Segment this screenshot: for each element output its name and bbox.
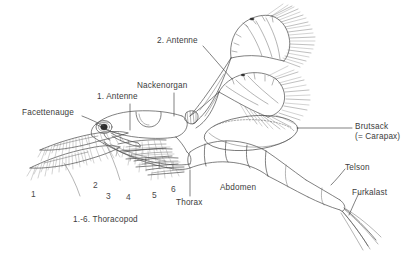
thoracopod-number-5: 5: [152, 190, 157, 200]
telson: [306, 180, 345, 211]
leader-telson: [331, 169, 345, 185]
thoracopods: [27, 132, 184, 197]
label-furkalast: Furkalast: [352, 188, 387, 198]
label-brutsack: Brutsack: [355, 122, 388, 132]
thoracopod-2: [38, 132, 128, 181]
nackenorgan: [136, 112, 161, 127]
thoracopod-number-4: 4: [126, 192, 131, 202]
brutsack-brood-pouch: [202, 111, 299, 155]
furkalast-furcal-rami: [341, 208, 381, 250]
diagram-drawing: [0, 0, 401, 258]
thoracopod-6: [146, 167, 184, 180]
second-antenna-lower-ramus: [219, 66, 310, 129]
thoracopod-number-6: 6: [171, 184, 176, 194]
leader-antenne-2: [203, 46, 232, 79]
label-telson: Telson: [345, 163, 370, 173]
thoracopod-number-3: 3: [106, 191, 111, 201]
label-nackenorgan: Nackenorgan: [137, 81, 188, 91]
second-antenna-peduncle: [185, 58, 231, 128]
label-thorax: Thorax: [176, 198, 202, 208]
anatomy-diagram: Facettenauge 1. Antenne Nackenorgan 2. A…: [0, 0, 401, 258]
label-antenne-2: 2. Antenne: [157, 36, 198, 46]
thoracopod-1: [27, 146, 120, 196]
thoracopod-number-2: 2: [93, 180, 98, 190]
label-antenne-1: 1. Antenne: [97, 92, 138, 102]
label-abdomen: Abdomen: [220, 183, 256, 193]
label-facettenauge: Facettenauge: [22, 108, 74, 118]
thoracopod-caption: 1.-6. Thoracopod: [73, 215, 138, 225]
label-carapax: (= Carapax): [355, 132, 400, 142]
second-antenna-upper-ramus: [231, 4, 315, 67]
thoracopod-number-1: 1: [31, 189, 36, 199]
